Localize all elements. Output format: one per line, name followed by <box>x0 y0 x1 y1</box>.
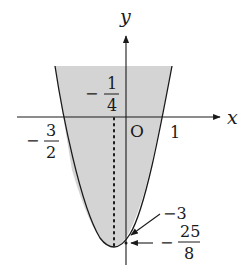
svg-text:1: 1 <box>107 74 117 93</box>
origin-label: O <box>130 121 144 141</box>
svg-text:2: 2 <box>46 143 56 162</box>
svg-text:25: 25 <box>180 222 200 241</box>
svg-text:3: 3 <box>46 121 56 140</box>
svg-text:−3: −3 <box>163 204 187 223</box>
y-axis-label: y <box>119 5 131 27</box>
svg-text:−: − <box>160 233 173 252</box>
vertex-point <box>125 242 128 245</box>
y-intercept-label: −3 <box>131 204 187 235</box>
vertex-y-label: − 25 8 <box>131 222 200 263</box>
left-root-label: − 3 2 <box>26 121 59 162</box>
right-root-label: 1 <box>170 123 180 142</box>
x-axis-label: x <box>227 106 238 128</box>
svg-text:−: − <box>26 131 39 150</box>
svg-text:4: 4 <box>107 96 117 115</box>
svg-text:−: − <box>85 84 98 103</box>
parabola-diagram: y x O − 1 4 − 3 2 1 −3 − 25 8 <box>0 0 245 265</box>
svg-text:8: 8 <box>184 244 194 263</box>
